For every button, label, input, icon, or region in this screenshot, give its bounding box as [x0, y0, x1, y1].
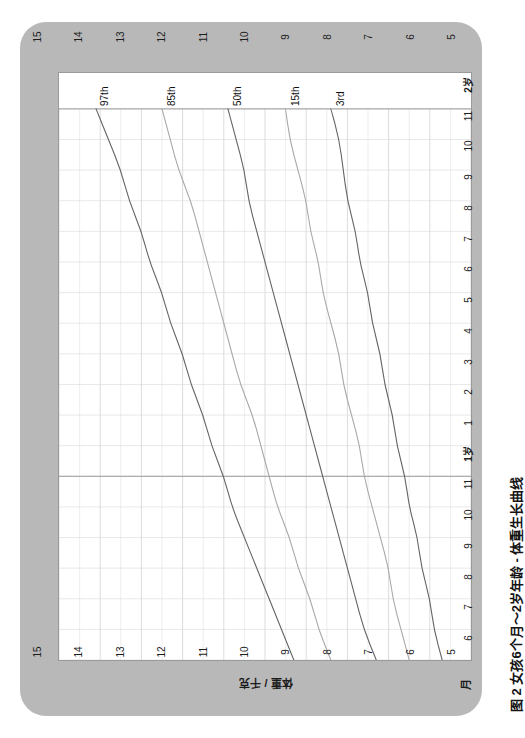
percentile-curves — [59, 73, 471, 660]
weight-tick-7: 7 — [364, 642, 374, 662]
curve-label-15th: 15th — [291, 87, 301, 106]
weight-tick-8: 8 — [323, 27, 333, 47]
month-tick-1: 1 — [464, 410, 474, 436]
month-tick-6: 6 — [464, 625, 474, 651]
month-tick-10: 10 — [464, 502, 474, 528]
grid-area — [59, 73, 471, 660]
month-tick-8: 8 — [464, 195, 474, 221]
month-tick-9: 9 — [464, 533, 474, 559]
weight-tick-6: 6 — [406, 642, 416, 662]
figure-caption: 图 2 女孩6个月～2岁年龄 - 体重生长曲线 — [506, 477, 525, 712]
weight-tick-15: 15 — [33, 642, 43, 662]
weight-tick-7: 7 — [364, 27, 374, 47]
weight-tick-10: 10 — [240, 27, 250, 47]
month-tick-9: 9 — [464, 164, 474, 190]
plot-frame: 97th85th50th15th3rd — [58, 72, 472, 661]
weight-tick-8: 8 — [323, 642, 333, 662]
weight-tick-14: 14 — [74, 642, 84, 662]
month-tick-11: 11 — [464, 103, 474, 129]
month-axis-title: 月 — [457, 671, 473, 697]
month-tick-1岁: 1岁 — [464, 441, 474, 467]
page-background: 97th85th50th15th3rd 15141312111098765 15… — [0, 0, 525, 738]
weight-tick-9: 9 — [281, 642, 291, 662]
weight-tick-10: 10 — [240, 642, 250, 662]
month-tick-5: 5 — [464, 287, 474, 313]
month-tick-3: 3 — [464, 349, 474, 375]
month-tick-8: 8 — [464, 564, 474, 590]
month-tick-10: 10 — [464, 133, 474, 159]
month-tick-6: 6 — [464, 256, 474, 282]
weight-tick-12: 12 — [157, 27, 167, 47]
month-tick-4: 4 — [464, 318, 474, 344]
weight-tick-11: 11 — [199, 27, 209, 47]
month-tick-2: 2 — [464, 379, 474, 405]
weight-tick-15: 15 — [33, 27, 43, 47]
curve-label-50th: 50th — [233, 87, 243, 106]
weight-tick-12: 12 — [157, 642, 167, 662]
curve-label-3rd: 3rd — [336, 92, 346, 106]
weight-tick-5: 5 — [447, 27, 457, 47]
month-tick-7: 7 — [464, 594, 474, 620]
chart-card: 97th85th50th15th3rd 15141312111098765 15… — [20, 22, 482, 716]
weight-axis-title: 体重 / 千克 — [186, 676, 346, 692]
weight-tick-9: 9 — [281, 27, 291, 47]
month-tick-11: 11 — [464, 471, 474, 497]
weight-tick-13: 13 — [116, 27, 126, 47]
curve-label-85th: 85th — [167, 87, 177, 106]
weight-tick-13: 13 — [116, 642, 126, 662]
weight-tick-14: 14 — [74, 27, 84, 47]
weight-tick-11: 11 — [199, 642, 209, 662]
curve-label-97th: 97th — [100, 87, 110, 106]
month-tick-2岁: 2岁 — [464, 72, 474, 98]
month-tick-7: 7 — [464, 226, 474, 252]
weight-tick-6: 6 — [406, 27, 416, 47]
weight-tick-5: 5 — [447, 642, 457, 662]
